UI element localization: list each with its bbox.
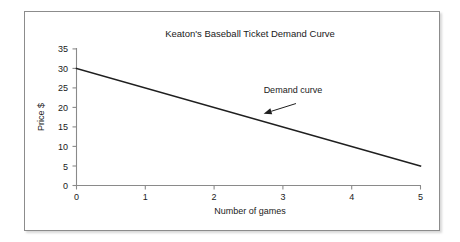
x-tick-label-3: 3: [280, 192, 285, 202]
figure-root: Keaton's Baseball Ticket Demand Curve Pr…: [0, 0, 460, 242]
x-axis-label: Number of games: [214, 206, 286, 216]
y-axis-label: Price $: [36, 103, 46, 131]
y-tick-label-20: 20: [58, 103, 68, 113]
chart-title: Keaton's Baseball Ticket Demand Curve: [165, 28, 335, 39]
x-tick-label-0: 0: [74, 192, 79, 202]
demand-curve-annotation-arrow: [264, 104, 296, 115]
x-tick-marks: [77, 186, 421, 190]
y-tick-label-5: 5: [63, 162, 68, 172]
y-tick-label-10: 10: [58, 142, 68, 152]
y-tick-label-25: 25: [58, 83, 68, 93]
y-tick-label-0: 0: [63, 181, 68, 191]
x-tick-label-1: 1: [143, 192, 148, 202]
y-tick-label-15: 15: [58, 122, 68, 132]
y-tick-marks: [73, 49, 77, 186]
y-tick-label-30: 30: [58, 64, 68, 74]
y-tick-label-35: 35: [58, 44, 68, 54]
x-tick-label-4: 4: [349, 192, 354, 202]
x-tick-label-5: 5: [418, 192, 423, 202]
demand-curve-chart: Keaton's Baseball Ticket Demand Curve Pr…: [0, 0, 460, 242]
x-tick-label-2: 2: [212, 192, 217, 202]
demand-curve-line: [77, 68, 421, 166]
demand-curve-annotation-label: Demand curve: [264, 85, 323, 95]
